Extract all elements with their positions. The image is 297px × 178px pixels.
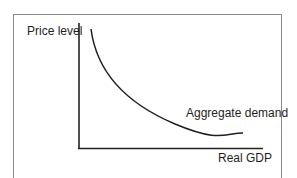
x-axis-label: Real GDP — [218, 151, 272, 165]
aggregate-demand-figure: Price level Aggregate demand Real GDP — [0, 0, 297, 178]
y-axis-label: Price level — [27, 24, 82, 38]
curve-label: Aggregate demand — [186, 106, 288, 120]
